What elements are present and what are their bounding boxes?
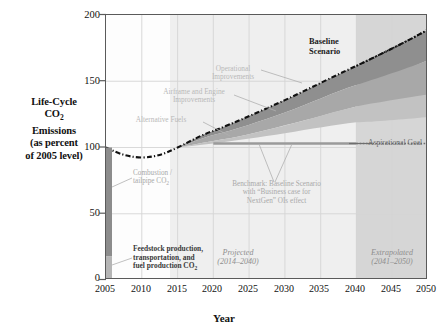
annotation-combustion-line1: Combustion / bbox=[133, 169, 205, 177]
y-tick-150: 150 bbox=[66, 75, 100, 86]
annotation-baseline-line2: Scenario bbox=[309, 47, 369, 57]
annotation-projected-line2: (2014–2040) bbox=[198, 257, 278, 266]
annotation-benchmark-line2: with “Business case for bbox=[204, 188, 349, 196]
plot-area: Operational Improvements Airframe and En… bbox=[105, 14, 427, 279]
y-tick-100: 100 bbox=[66, 141, 100, 152]
chart-root: Life-Cycle CO2 Emissions (as percent of … bbox=[0, 0, 448, 331]
y-axis-title: Life-Cycle CO2 Emissions (as percent of … bbox=[6, 96, 102, 162]
y-axis-title-line2: CO2 bbox=[6, 108, 102, 125]
annotation-combustion-co2: Combustion / tailpipe CO2 bbox=[133, 169, 205, 188]
leader-combustion bbox=[112, 178, 132, 187]
annotation-operational-improvements: Operational Improvements bbox=[198, 65, 268, 82]
annotation-aspirational-text: Aspirational Goal bbox=[368, 139, 427, 147]
y-axis-ticks bbox=[96, 10, 108, 282]
y-axis-title-line3: Emissions bbox=[6, 125, 102, 137]
annotation-baseline-line1: Baseline bbox=[309, 37, 369, 47]
annotation-baseline-scenario: Baseline Scenario bbox=[309, 37, 369, 56]
y-tick-50: 50 bbox=[66, 207, 100, 218]
annotation-alternative-fuels: Alternative Fuels bbox=[124, 116, 198, 124]
annotation-extrapolated-line1: Extrapolated bbox=[358, 248, 426, 257]
bar-leaders bbox=[112, 178, 132, 265]
annotation-benchmark-line3: NextGen” OIs effect bbox=[204, 197, 349, 205]
annotation-extrapolated-line2: (2041–2050) bbox=[358, 257, 426, 266]
annotation-airframe-line2: Improvements bbox=[146, 96, 242, 104]
annotation-region-projected: Projected (2014–2040) bbox=[198, 248, 278, 267]
annotation-altfuels-line1: Alternative Fuels bbox=[124, 116, 198, 124]
annotation-region-extrapolated: Extrapolated (2041–2050) bbox=[358, 248, 426, 267]
annotation-benchmark: Benchmark: Baseline Scenario with “Busin… bbox=[204, 180, 349, 205]
annotation-operational-line2: Improvements bbox=[198, 73, 268, 81]
y-tick-200: 200 bbox=[66, 9, 100, 20]
annotation-aspirational-goal: Aspirational Goal bbox=[368, 139, 427, 147]
x-axis-title: Year bbox=[0, 312, 448, 324]
annotation-combustion-line2: tailpipe CO2 bbox=[133, 177, 205, 188]
annotation-airframe-engine: Airframe and Engine Improvements bbox=[146, 88, 242, 105]
annotation-projected-line1: Projected bbox=[198, 248, 278, 257]
leader-feedstock bbox=[112, 258, 132, 265]
x-tick-2050: 2050 bbox=[404, 283, 448, 294]
annotation-benchmark-line1: Benchmark: Baseline Scenario bbox=[204, 180, 349, 188]
y-axis-title-line1: Life-Cycle bbox=[6, 96, 102, 108]
y-tick-0: 0 bbox=[66, 272, 100, 283]
